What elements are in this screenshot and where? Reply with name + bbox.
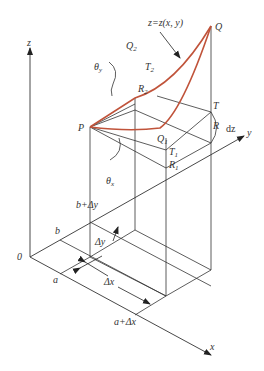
surface-label: z=z(x, y)	[147, 17, 184, 29]
theta-y-label: θy	[94, 61, 103, 74]
tangent-lines	[90, 96, 217, 168]
theta-y-arc	[109, 62, 116, 96]
z-axis-label: z	[26, 37, 31, 48]
surface-differential-diagram: z y x 0 P Q Q2 Q1 R2 R1 R T2 T1 T z=z(x,…	[0, 0, 264, 371]
point-T: T	[213, 100, 220, 111]
point-T1: T1	[169, 146, 178, 159]
point-Q: Q	[215, 21, 223, 32]
point-R1: R1	[168, 159, 179, 172]
theta-x-arc	[110, 138, 120, 160]
interval-dy: Δy	[94, 236, 106, 247]
y-axis	[30, 136, 244, 257]
y-axis-label: y	[246, 127, 252, 138]
theta-x-label: θx	[106, 175, 115, 188]
tick-b-plus-dy: b+Δy	[76, 199, 99, 210]
point-Q1: Q1	[157, 133, 168, 146]
tick-b: b	[55, 225, 60, 236]
dimension-arrows	[80, 227, 150, 304]
tick-a: a	[53, 274, 58, 285]
point-R: R	[212, 120, 219, 131]
surface-pointer	[160, 32, 180, 58]
point-P: P	[77, 122, 84, 133]
axes	[30, 48, 244, 355]
base-rectangle	[60, 222, 211, 315]
x-axis-label: x	[209, 341, 215, 352]
point-Q2: Q2	[126, 40, 137, 53]
point-R2: R2	[137, 83, 148, 96]
tick-a-plus-dx: a+Δx	[114, 316, 137, 327]
point-T2: T2	[145, 61, 155, 74]
dz-label: dz	[226, 123, 236, 134]
interval-dx: Δx	[103, 276, 115, 287]
origin-label: 0	[17, 251, 22, 262]
surface-curves	[90, 26, 211, 130]
